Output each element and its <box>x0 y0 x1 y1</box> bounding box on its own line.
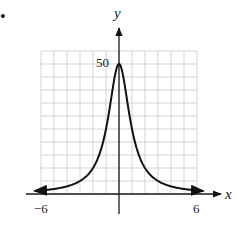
x-tick-label-6: 6 <box>193 201 200 216</box>
x-axis-label: x <box>224 186 232 202</box>
bullet-mark: • <box>0 8 6 25</box>
y-tick-label-50: 50 <box>96 55 109 70</box>
x-tick-label-neg6: −6 <box>34 201 48 216</box>
axes <box>26 28 221 214</box>
chart: • y x 50 −6 6 <box>0 0 244 228</box>
y-axis-label: y <box>112 5 121 21</box>
